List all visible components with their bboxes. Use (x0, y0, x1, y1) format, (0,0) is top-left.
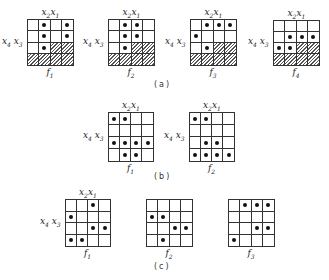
kmap-cell (109, 125, 120, 137)
dot-icon (215, 153, 219, 157)
dot-icon (204, 117, 208, 121)
kmap-cell (109, 20, 120, 31)
kmap-cell (308, 43, 319, 54)
kmap-cell (240, 223, 251, 235)
kmap-cell (201, 149, 212, 161)
kmap-cell (39, 43, 50, 54)
kmap-cell (147, 212, 158, 224)
kmap-cell (120, 20, 131, 31)
kmap-cell (88, 235, 99, 247)
dot-icon (123, 23, 127, 27)
kmap-cell (308, 21, 319, 32)
kmap-cell (202, 31, 213, 42)
kmap-cell (201, 125, 212, 137)
kmap-cell (229, 235, 240, 247)
kmap-cell (190, 113, 201, 125)
caption-c: (c) (154, 262, 171, 271)
dot-icon (205, 46, 209, 50)
kmap-cell (225, 43, 236, 54)
column-variables-label: x2x1 (123, 7, 141, 19)
kmap-cell (109, 54, 120, 65)
dot-icon (91, 203, 95, 207)
column-variables-label: x2x1 (42, 7, 60, 19)
kmap-cell (212, 149, 223, 161)
kmap-cell (297, 43, 308, 54)
kmap-cell (28, 20, 39, 31)
kmap-cell (297, 32, 308, 43)
kmap-c-f1 (65, 199, 111, 247)
dot-icon (42, 34, 46, 38)
kmap-cell (170, 212, 181, 224)
kmap-cell (147, 200, 158, 212)
kmap-cell (181, 235, 192, 247)
kmap-a-f1 (27, 19, 74, 66)
kmap-cell (274, 32, 285, 43)
dot-icon (135, 23, 139, 27)
kmap-cell (229, 200, 240, 212)
kmap-c-f3 (228, 199, 275, 247)
row-variables-label: x4 x3 (83, 36, 104, 48)
kmap-cell (142, 125, 153, 137)
kmap-a-f3 (190, 19, 237, 66)
kmap-cell (285, 43, 296, 54)
kmap-cell (109, 137, 120, 149)
function-label-f2: f2 (208, 163, 215, 175)
kmap-cell (214, 20, 225, 31)
kmap-cell (274, 43, 285, 54)
dot-icon (227, 153, 231, 157)
dot-icon (232, 238, 236, 242)
row-variables-label: x4 x3 (165, 36, 186, 48)
column-variables-label: x2x1 (205, 7, 223, 19)
kmap-cell (120, 137, 131, 149)
dot-icon (65, 23, 69, 27)
kmap-cell (143, 20, 154, 31)
dot-icon (123, 141, 127, 145)
dot-icon (42, 46, 46, 50)
dot-icon (80, 238, 84, 242)
kmap-cell (223, 125, 234, 137)
function-label-f2: f2 (128, 67, 135, 79)
kmap-cell (39, 54, 50, 65)
kmap-cell (308, 32, 319, 43)
row-variables-label: x4 x3 (40, 216, 61, 228)
kmap-cell (223, 137, 234, 149)
kmap-cell (51, 43, 62, 54)
row-variables-label: x4 x3 (83, 130, 104, 142)
dot-icon (184, 226, 188, 230)
kmap-cell (99, 212, 110, 224)
kmap-cell (214, 54, 225, 65)
function-label-f4: f4 (293, 67, 300, 79)
kmap-b-f2 (189, 112, 235, 162)
dot-icon (123, 117, 127, 121)
kmap-cell (190, 137, 201, 149)
kmap-cell (229, 223, 240, 235)
dot-icon (69, 215, 73, 219)
kmap-cell (131, 113, 142, 125)
kmap-cell (191, 43, 202, 54)
dot-icon (255, 226, 259, 230)
column-variables-label: x2x1 (288, 8, 306, 20)
caption-a: (a) (154, 80, 171, 89)
kmap-cell (158, 200, 169, 212)
kmap-b-f1 (108, 112, 154, 162)
kmap-cell (66, 212, 77, 224)
dot-icon (243, 203, 247, 207)
kmap-cell (131, 125, 142, 137)
dot-icon (134, 141, 138, 145)
kmap-a-f2 (108, 19, 155, 66)
function-label-f1: f1 (47, 67, 54, 79)
dot-icon (112, 141, 116, 145)
function-label-f1: f1 (84, 248, 91, 260)
kmap-cell (132, 20, 143, 31)
kmap-c-f2 (146, 199, 193, 247)
kmap-cell (201, 113, 212, 125)
row-variables-label: x4 x3 (164, 130, 185, 142)
kmap-cell (51, 54, 62, 65)
kmap-cell (285, 32, 296, 43)
kmap-cell (28, 54, 39, 65)
kmap-cell (131, 137, 142, 149)
dot-icon (204, 153, 208, 157)
kmap-cell (51, 31, 62, 42)
kmap-cell (62, 43, 73, 54)
kmap-cell (143, 43, 154, 54)
